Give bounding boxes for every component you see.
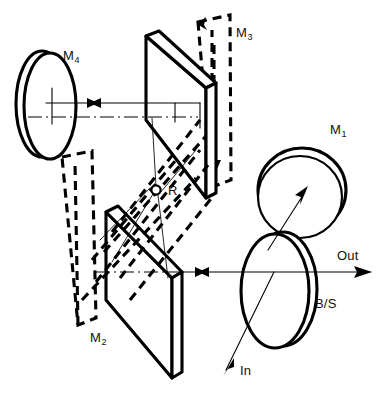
mirror-m3-side-edge [206,83,216,198]
figure-canvas: M4 M3 M1 M2 R Out B/S In [0,0,386,397]
label-m3-subscript: 3 [248,32,253,42]
label-r-text: R [168,183,178,198]
label-m4-subscript: 4 [75,55,80,65]
label-bs: B/S [315,296,337,311]
label-in-text: In [240,363,251,378]
label-m3: M3 [236,25,252,40]
optical-diagram-svg [0,0,386,397]
label-in: In [240,363,251,378]
lower-beam-arrowhead-right [198,267,209,277]
internal-ray-a [112,120,200,232]
beam-splitter-face [241,234,309,348]
label-m4-text: M [63,48,74,63]
mirror-m4-face [24,53,76,159]
label-m3-text: M [236,25,247,40]
label-out-text: Out [337,248,359,263]
label-bs-text: B/S [315,296,337,311]
mirror-m2-side-edge [172,272,182,378]
mirror-m1-face [258,156,342,238]
label-r: R [168,183,178,198]
label-m2-text: M [90,330,101,345]
rotation-point-marker [151,185,160,194]
mirror-m2-alternate [62,151,96,325]
rotation-point-r [151,185,160,194]
label-m4: M4 [63,48,79,63]
input-beam-arrowhead [223,358,234,376]
mirror-m2-alternate-outline [62,151,96,325]
label-m2-subscript: 2 [102,337,107,347]
label-out: Out [337,248,359,263]
mirror-m4 [16,51,76,159]
label-m2: M2 [90,330,106,345]
beam-splitter [241,232,317,348]
label-m1-subscript: 1 [342,129,347,139]
label-m1: M1 [330,122,346,137]
label-m1-text: M [330,122,341,137]
upper-beam-arrowhead-right [90,98,101,108]
